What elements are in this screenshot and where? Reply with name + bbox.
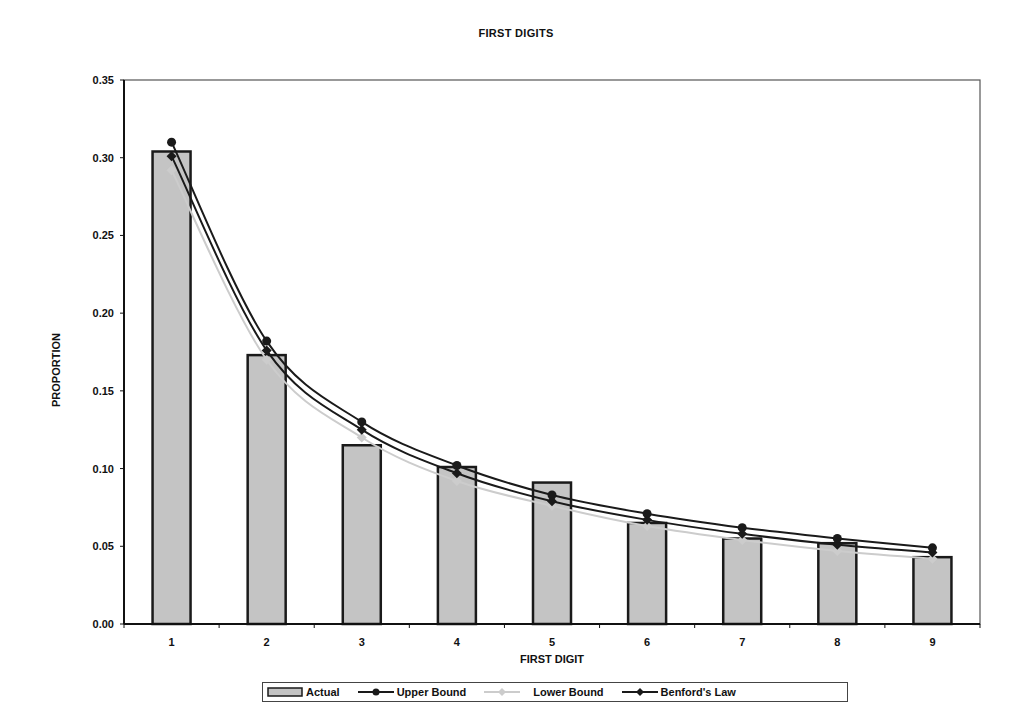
bar-swatch-icon bbox=[267, 687, 303, 697]
plot-area: 0.000.050.100.150.200.250.300.3512345678… bbox=[0, 0, 1032, 723]
legend-item-lower-bound: Lower Bound bbox=[484, 686, 603, 698]
x-tick-label: 3 bbox=[359, 636, 365, 648]
y-tick-label: 0.20 bbox=[93, 307, 114, 319]
bar bbox=[723, 539, 761, 624]
line-diamond-marker-icon bbox=[622, 687, 658, 697]
x-tick-label: 6 bbox=[644, 636, 650, 648]
circle-marker bbox=[167, 138, 176, 147]
line-diamond-marker-icon bbox=[484, 687, 520, 697]
x-tick-label: 2 bbox=[264, 636, 270, 648]
circle-marker bbox=[738, 523, 747, 532]
legend-label-upper-bound: Upper Bound bbox=[397, 686, 467, 698]
bar bbox=[628, 523, 666, 624]
circle-marker bbox=[548, 490, 557, 499]
bar bbox=[913, 557, 951, 624]
circle-marker bbox=[928, 543, 937, 552]
legend-item-benfords-law: Benford's Law bbox=[622, 686, 736, 698]
legend-label-lower-bound: Lower Bound bbox=[533, 686, 603, 698]
circle-marker bbox=[643, 509, 652, 518]
circle-marker bbox=[262, 337, 271, 346]
circle-marker bbox=[357, 417, 366, 426]
y-tick-label: 0.15 bbox=[93, 385, 114, 397]
legend-label-benfords-law: Benford's Law bbox=[661, 686, 736, 698]
legend-item-upper-bound: Upper Bound bbox=[358, 686, 467, 698]
x-tick-label: 7 bbox=[739, 636, 745, 648]
bar-series-actual bbox=[153, 151, 952, 624]
y-tick-label: 0.00 bbox=[93, 618, 114, 630]
x-tick-label: 5 bbox=[549, 636, 555, 648]
y-tick-label: 0.30 bbox=[93, 152, 114, 164]
y-tick-label: 0.25 bbox=[93, 229, 114, 241]
y-tick-label: 0.35 bbox=[93, 74, 114, 86]
x-tick-label: 1 bbox=[168, 636, 174, 648]
bar bbox=[248, 355, 286, 624]
y-tick-label: 0.05 bbox=[93, 540, 114, 552]
legend-label-actual: Actual bbox=[306, 686, 340, 698]
bar bbox=[343, 445, 381, 624]
circle-marker bbox=[452, 461, 461, 470]
x-tick-label: 8 bbox=[834, 636, 840, 648]
y-tick-label: 0.10 bbox=[93, 463, 114, 475]
legend-item-actual: Actual bbox=[267, 686, 340, 698]
x-tick-label: 4 bbox=[454, 636, 461, 648]
legend: Actual Upper Bound Lower Bound Benford's… bbox=[262, 682, 848, 702]
line-circle-marker-icon bbox=[358, 687, 394, 697]
x-tick-label: 9 bbox=[929, 636, 935, 648]
bar bbox=[438, 467, 476, 624]
circle-marker bbox=[833, 534, 842, 543]
bar bbox=[153, 151, 191, 624]
